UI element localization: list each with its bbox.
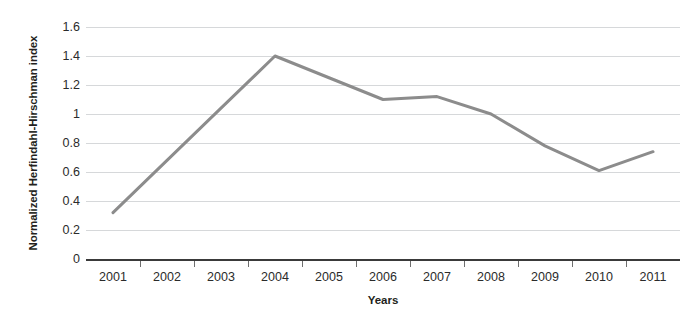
x-axis-tick-label: 2007: [407, 270, 467, 284]
y-axis-tick-label: 0: [44, 253, 80, 265]
y-axis-tick-label: 1.4: [44, 50, 80, 62]
y-axis-tick-label: 1.6: [44, 21, 80, 33]
x-axis-tick-label: 2010: [569, 270, 629, 284]
x-axis-tick-mark: [248, 261, 249, 267]
x-axis-tick-label: 2004: [245, 270, 305, 284]
x-axis-tick-mark: [194, 261, 195, 267]
x-axis-tick-mark: [626, 261, 627, 267]
y-axis-title: Normalized Herfindahl-Hirschman index: [22, 18, 44, 268]
x-axis-tick-label: 2001: [83, 270, 143, 284]
line-chart: Normalized Herfindahl-Hirschman index 00…: [0, 0, 699, 329]
x-axis-tick-label: 2002: [137, 270, 197, 284]
y-axis-tick-label: 0.6: [44, 166, 80, 178]
x-axis-tick-mark: [302, 261, 303, 267]
x-axis-tick-label: 2006: [353, 270, 413, 284]
x-axis-tick-mark: [518, 261, 519, 267]
x-axis-tick-mark: [410, 261, 411, 267]
x-axis-tick-mark: [572, 261, 573, 267]
x-axis-tick-labels: 2001200220032004200520062007200820092010…: [86, 270, 680, 286]
plot-area: [86, 27, 680, 259]
x-axis-tick-label: 2003: [191, 270, 251, 284]
y-axis-tick-label: 1.2: [44, 79, 80, 91]
y-axis-tick-label: 0.4: [44, 195, 80, 207]
x-axis-tick-mark: [140, 261, 141, 267]
x-axis-title: Years: [86, 294, 680, 306]
series-line-normalized-herfindahl-hirschman-index: [86, 27, 680, 259]
x-axis-tick-marks: [86, 261, 680, 267]
x-axis-tick-label: 2008: [461, 270, 521, 284]
x-axis-tick-mark: [464, 261, 465, 267]
x-axis-tick-label: 2005: [299, 270, 359, 284]
y-axis-tick-label: 0.8: [44, 137, 80, 149]
x-axis-tick-label: 2011: [623, 270, 683, 284]
y-axis-tick-labels: 00.20.40.60.811.21.41.6: [44, 27, 80, 259]
y-axis-tick-label: 1: [44, 108, 80, 120]
x-axis-tick-mark: [356, 261, 357, 267]
y-axis-tick-label: 0.2: [44, 224, 80, 236]
series-polyline: [113, 56, 653, 213]
x-axis-tick-label: 2009: [515, 270, 575, 284]
